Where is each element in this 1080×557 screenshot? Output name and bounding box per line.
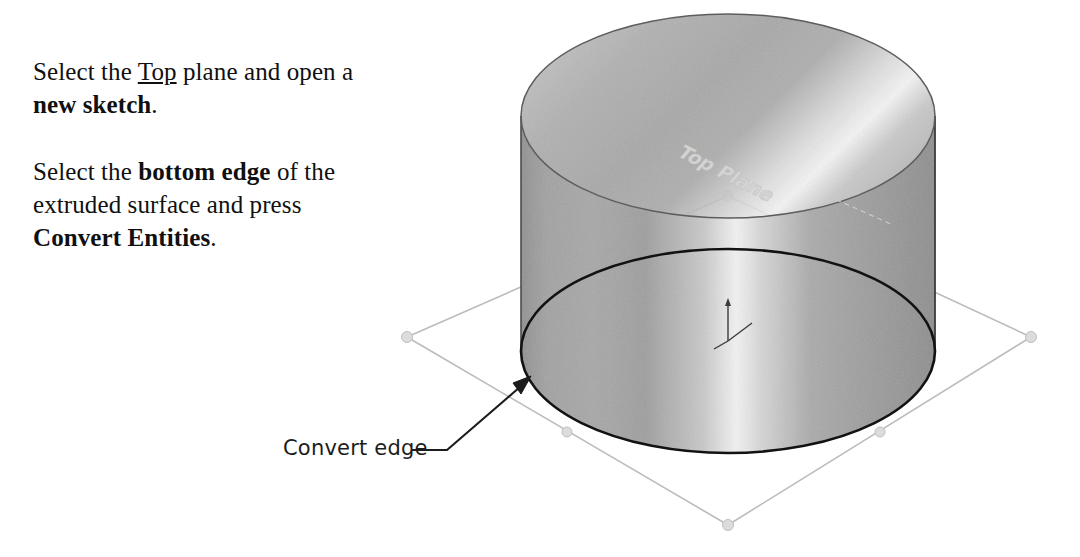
plane-handle-left[interactable] (402, 332, 413, 343)
callout-leader-line (411, 380, 528, 450)
plane-handle-mid-bottom-right[interactable] (875, 427, 885, 437)
illustration-page: Select the Top plane and open a new sket… (0, 0, 1080, 557)
cylinder-top-face (521, 14, 935, 218)
convert-edge-callout (411, 376, 531, 450)
cad-illustration: Top Plane (0, 0, 1080, 557)
plane-handle-mid-bottom-left[interactable] (562, 427, 572, 437)
convert-edge-label: Convert edge (283, 436, 428, 460)
plane-handle-right[interactable] (1026, 332, 1037, 343)
extruded-cylinder-surface (521, 14, 935, 453)
plane-handle-bottom[interactable] (723, 520, 734, 531)
